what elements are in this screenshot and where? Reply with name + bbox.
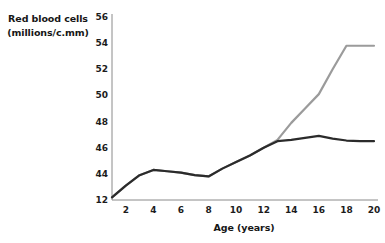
plot-area [0,0,385,243]
series-layer [112,46,374,198]
series-line [112,136,374,197]
series-line [112,46,374,198]
red-blood-cells-line-chart: Red blood cells (millions/c.mm) Age (yea… [0,0,385,243]
